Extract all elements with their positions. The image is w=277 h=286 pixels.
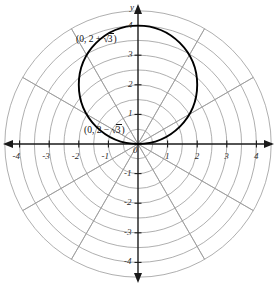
x-tick-label-2: 2: [195, 152, 200, 161]
x-tick-label--4: -4: [13, 152, 21, 161]
polar-plot-canvas: [0, 0, 277, 286]
lower-point-label: (0, 2 − √3): [84, 126, 125, 136]
radicand: 3: [116, 124, 122, 135]
y-tick-label--4: -4: [124, 257, 132, 266]
y-tick-label-4: 4: [128, 21, 133, 30]
x-tick-label--2: -2: [72, 152, 80, 161]
polar-graph-figure: y 0 -4-3-2-11234 4321-1-2-3-4 (0, 2 + √3…: [0, 0, 277, 286]
y-axis-arrow-down: [134, 273, 142, 283]
y-axis-label: y: [130, 3, 134, 12]
y-tick-label-3: 3: [128, 50, 133, 59]
y-tick-label-2: 2: [128, 80, 133, 89]
y-tick-label--3: -3: [124, 228, 132, 237]
y-axis-arrow-up: [134, 4, 142, 14]
y-tick-label-1: 1: [128, 109, 133, 118]
y-tick-label--2: -2: [124, 198, 132, 207]
radicand: 3: [108, 33, 114, 44]
x-tick-label-1: 1: [165, 152, 170, 161]
x-tick-label--1: -1: [101, 152, 109, 161]
radical-sign: √3: [104, 34, 114, 44]
origin-label: 0: [133, 146, 138, 155]
x-tick-label--3: -3: [42, 152, 50, 161]
x-tick-label-4: 4: [254, 152, 259, 161]
upper-point-label: (0, 2 + √3): [76, 35, 117, 45]
x-axis-arrow-right: [264, 140, 274, 148]
x-tick-label-3: 3: [224, 152, 229, 161]
radical-sign: √3: [112, 125, 122, 135]
y-tick-label--1: -1: [124, 169, 132, 178]
